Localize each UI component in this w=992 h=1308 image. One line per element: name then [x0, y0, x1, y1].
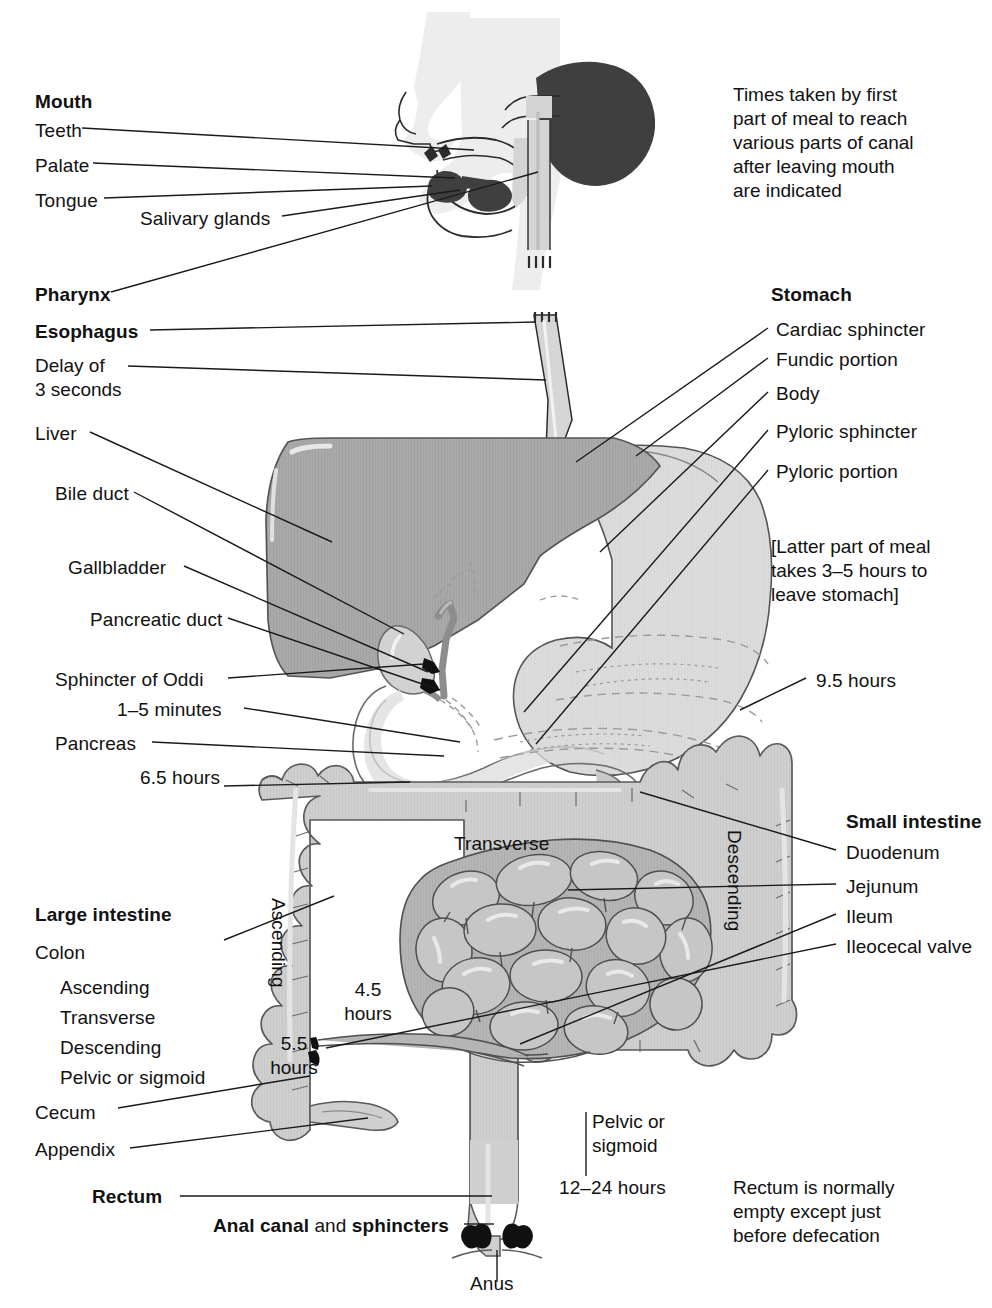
- stomach-heading: Stomach: [771, 283, 852, 306]
- label-gallbladder: Gallbladder: [68, 556, 166, 579]
- label-teeth: Teeth: [35, 119, 82, 142]
- label-tongue: Tongue: [35, 189, 98, 212]
- large-intestine-heading: Large intestine: [35, 903, 172, 926]
- label-colon-descending: Descending: [60, 1036, 161, 1059]
- time-12-24-hours: 12–24 hours: [559, 1176, 666, 1199]
- mouth-heading: Mouth: [35, 90, 92, 113]
- label-pyloric-sphincter: Pyloric sphincter: [776, 420, 917, 443]
- anal-canal-conjunction: and: [309, 1215, 352, 1236]
- label-salivary-glands: Salivary glands: [140, 207, 270, 230]
- head-and-mouth: [395, 12, 655, 290]
- label-oddi-transit-time: 1–5 minutes: [117, 698, 222, 721]
- label-colon-pelvic-or-sigmoid: Pelvic or sigmoid: [60, 1066, 205, 1089]
- label-pancreas: Pancreas: [55, 732, 136, 755]
- label-cecum: Cecum: [35, 1101, 96, 1124]
- label-colon: Colon: [35, 941, 85, 964]
- label-body: Body: [776, 382, 820, 405]
- label-duodenum: Duodenum: [846, 841, 940, 864]
- label-esophagus: Esophagus: [35, 320, 138, 343]
- time-6-5-hours: 6.5 hours: [140, 766, 220, 789]
- esophagus: [534, 312, 572, 452]
- label-pyloric-portion: Pyloric portion: [776, 460, 898, 483]
- label-rectum: Rectum: [92, 1185, 162, 1208]
- inline-label-ascending: Ascending: [267, 898, 290, 988]
- label-ileocecal-valve: Ileocecal valve: [846, 935, 972, 958]
- label-jejunum: Jejunum: [846, 875, 919, 898]
- label-palate: Palate: [35, 154, 89, 177]
- small-intestine-heading: Small intestine: [846, 810, 982, 833]
- label-ileum: Ileum: [846, 905, 893, 928]
- label-pancreatic-duct: Pancreatic duct: [90, 608, 222, 631]
- label-sphincter-of-oddi: Sphincter of Oddi: [55, 668, 204, 691]
- inline-label-pelvic-or-sigmoid: Pelvic or sigmoid: [592, 1110, 702, 1158]
- note-latter-part-of-meal: [Latter part of meal takes 3–5 hours to …: [771, 535, 991, 607]
- digestive-tract-diagram: Mouth Teeth Palate Tongue Salivary gland…: [0, 0, 992, 1308]
- label-liver: Liver: [35, 422, 77, 445]
- note-rectum-normally-empty: Rectum is normally empty except just bef…: [733, 1176, 973, 1248]
- time-5-5-hours: 5.5 hours: [263, 1032, 325, 1080]
- inline-label-transverse: Transverse: [454, 832, 549, 855]
- label-appendix: Appendix: [35, 1138, 115, 1161]
- label-cardiac-sphincter: Cardiac sphincter: [776, 318, 926, 341]
- label-fundic-portion: Fundic portion: [776, 348, 898, 371]
- inline-label-descending: Descending: [723, 830, 746, 931]
- label-anal-canal-and-sphincters: Anal canal and sphincters: [213, 1214, 449, 1237]
- label-bile-duct: Bile duct: [55, 482, 129, 505]
- time-4-5-hours: 4.5 hours: [338, 978, 398, 1026]
- sphincters-bold-text: sphincters: [352, 1215, 449, 1236]
- note-transit-times: Times taken by first part of meal to rea…: [733, 83, 963, 203]
- label-delay-3-seconds: Delay of 3 seconds: [35, 354, 185, 402]
- label-anus: Anus: [470, 1272, 514, 1295]
- anal-canal-bold-text: Anal canal: [213, 1215, 309, 1236]
- label-colon-ascending: Ascending: [60, 976, 150, 999]
- time-9-5-hours: 9.5 hours: [816, 669, 896, 692]
- label-pharynx: Pharynx: [35, 283, 111, 306]
- label-colon-transverse: Transverse: [60, 1006, 155, 1029]
